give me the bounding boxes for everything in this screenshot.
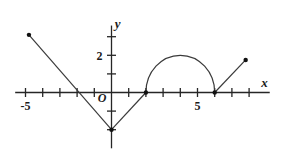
labels-group: -552xyO — [21, 16, 269, 112]
points-group — [27, 33, 248, 132]
axis-name-label: x — [260, 75, 268, 90]
x-tick-label: 5 — [195, 99, 201, 113]
data-point-dot — [27, 33, 31, 37]
curve-right-ascending-segment-of-v — [112, 93, 146, 130]
data-point-dot — [109, 128, 113, 132]
coordinate-plane-svg: -552xyO — [0, 0, 288, 165]
curves-group — [29, 35, 246, 130]
curve-semicircle — [146, 55, 215, 92]
axes-group — [15, 26, 270, 149]
origin-label: O — [98, 91, 107, 105]
ticks-group — [26, 37, 250, 130]
x-tick-label: -5 — [21, 99, 31, 113]
axis-name-label: y — [113, 16, 121, 31]
y-tick-label: 2 — [97, 49, 103, 63]
graph-figure: -552xyO — [0, 0, 288, 165]
data-point-dot — [213, 90, 217, 94]
curve-right-rising-ray — [215, 60, 246, 93]
data-point-dot — [144, 90, 148, 94]
data-point-dot — [243, 58, 247, 62]
